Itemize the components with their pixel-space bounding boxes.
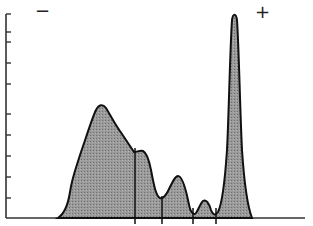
density-curve [58, 15, 252, 218]
y-axis [6, 14, 11, 218]
plus-label: + [255, 3, 270, 21]
densitometry-chart [0, 0, 313, 226]
minus-label: − [35, 2, 50, 20]
